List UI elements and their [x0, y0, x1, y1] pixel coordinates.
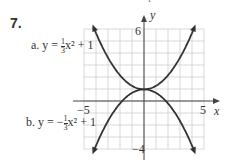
y-min-tick: −4 — [132, 142, 145, 157]
curve-arrow-icon — [92, 25, 98, 33]
x-axis-label: x — [214, 104, 219, 119]
label-a: a. y = 13x² + 1 — [31, 38, 93, 55]
graph — [0, 0, 228, 165]
y-max-tick: 6 — [135, 24, 141, 39]
y-axis-label: y — [150, 8, 155, 23]
curve-arrow-icon — [190, 25, 196, 33]
x-min-tick: −5 — [77, 103, 90, 118]
y-axis-arrow-icon — [141, 15, 147, 22]
x-max-tick: 5 — [200, 103, 206, 118]
